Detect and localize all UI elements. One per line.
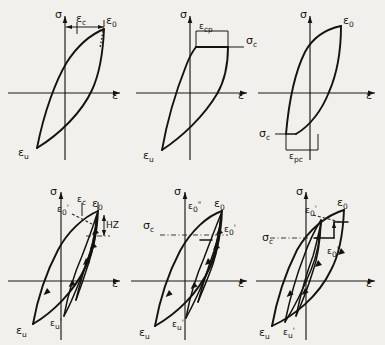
panel-1-eu-label: εu <box>18 146 29 161</box>
panel-3-sigma-label: σ <box>300 8 307 21</box>
panel-4-ec-label: εc <box>77 194 86 207</box>
panel-5: σ ε ε0" ε0 σc ε0' εu εu' <box>131 185 247 341</box>
panel-3-lower-branch <box>296 26 341 134</box>
panel-4-arrow-4 <box>90 242 97 249</box>
panel-5-arrow-4 <box>213 243 220 250</box>
panel-2: σ ε εcp σc εu <box>136 8 257 164</box>
panel-6-e0-label: ε0 <box>337 196 348 211</box>
panel-5-e0-label: ε0 <box>214 197 225 212</box>
panel-6-euprime-label: εu' <box>283 326 295 340</box>
panel-3-sigma-c-label: σc <box>259 127 270 142</box>
panel-1-lower-branch <box>37 29 104 148</box>
panel-1-epsilon-label: ε <box>112 89 118 102</box>
panel-4-sigma-label: σ <box>50 185 57 198</box>
panel-3-e0-label: ε0 <box>343 14 354 29</box>
panel-1: σ ε εc ε0 εu <box>8 8 120 161</box>
panel-2-eu-label: εu <box>143 149 154 164</box>
panel-6-epsilon-label: ε <box>366 277 372 290</box>
panel-1-ec-label: εc <box>76 12 86 27</box>
panel-5-eu-label: εu <box>139 326 150 341</box>
panel-2-ecp-label: εcp <box>199 21 213 34</box>
panel-4-inner-upper <box>64 214 97 316</box>
panel-5-y-axis-arrow <box>183 192 188 199</box>
panel-6-eu-label: εu <box>259 326 270 341</box>
panel-5-inner-lower <box>186 214 221 318</box>
panel-4-epsilon-label: ε <box>112 277 118 290</box>
panel-2-sigma-label: σ <box>180 8 187 21</box>
panel-5-e0dprime-label: ε0" <box>188 200 201 214</box>
panel-4-inner2-upper <box>76 216 97 300</box>
panel-5-euprime-label: εu' <box>172 318 184 332</box>
panel-6-sigma-c-label: σc <box>262 231 273 246</box>
panel-1-dim-arrow-right <box>98 25 104 29</box>
panel-4-hz-arrow-bottom <box>102 230 106 236</box>
panel-5-e0prime-label: ε0' <box>224 223 236 237</box>
panel-1-e0-label: ε0 <box>106 14 117 29</box>
panel-1-dim-arrow-left <box>66 25 72 29</box>
hysteresis-figure: σ ε εc ε0 εu σ ε εcp σc εu <box>0 0 385 345</box>
panel-2-upper-branch <box>162 47 196 150</box>
panel-5-arrow-5 <box>216 228 223 235</box>
panel-3: σ ε ε0 σc εpc <box>258 8 375 164</box>
panel-4-arrow-1 <box>44 288 51 295</box>
panel-3-epsilon-label: ε <box>366 89 372 102</box>
panel-6: σ ε ε0' ε0 σc ε0" εu εu' <box>256 185 375 341</box>
panel-4-eu-label: εu <box>16 324 27 339</box>
panel-5-sigma-c-label: σc <box>143 219 154 234</box>
panel-4: σ ε ε0' εc ε0 HZ εu εu' <box>8 185 120 340</box>
panel-2-y-axis-arrow <box>188 16 193 23</box>
panel-4-euprime-label: εu' <box>50 317 62 331</box>
panel-3-y-axis-arrow <box>308 16 313 23</box>
panel-6-step-arrow-up <box>332 222 336 228</box>
panel-5-arrow-1 <box>166 290 173 297</box>
panel-4-e0-label: ε0 <box>92 197 103 212</box>
panel-4-e0prime-label: ε0' <box>57 203 69 217</box>
panel-6-sigma-label: σ <box>296 185 303 198</box>
panel-3-epc-label: εpc <box>289 151 303 164</box>
panel-4-hz-label: HZ <box>106 220 119 230</box>
panel-6-y-axis-arrow <box>304 192 309 199</box>
panel-5-inner-upper <box>186 214 221 318</box>
panel-1-sigma-label: σ <box>55 8 62 21</box>
panel-2-lower-branch <box>162 47 228 150</box>
panel-2-sigma-c-label: σc <box>246 34 257 49</box>
panel-4-arrow-5 <box>92 228 99 235</box>
panel-6-e0dprime-label: ε0" <box>327 245 340 259</box>
panel-1-y-axis-arrow <box>63 16 68 23</box>
panel-4-y-axis-arrow <box>59 192 64 199</box>
panel-1-upper-branch <box>37 29 104 148</box>
panel-5-inner2-upper <box>198 217 221 302</box>
panel-2-epsilon-label: ε <box>238 89 244 102</box>
panel-5-sigma-label: σ <box>174 185 181 198</box>
panel-5-arrow-2 <box>191 282 198 289</box>
panel-5-epsilon-label: ε <box>238 277 244 290</box>
